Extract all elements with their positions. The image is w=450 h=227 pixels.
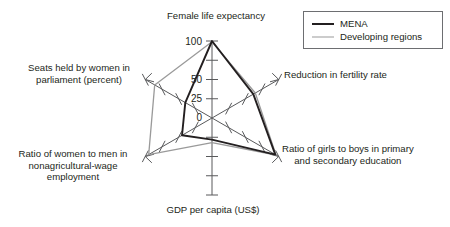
tick-wage-25 <box>192 122 198 134</box>
axis-label-education-line2: and secondary education <box>282 155 414 167</box>
radar-scale-labels: 0 25 50 100 <box>185 36 202 124</box>
radar-chart-figure: 0 25 50 100 Female life expectancy Reduc… <box>0 0 450 227</box>
scale-label-25: 25 <box>191 93 203 104</box>
axis-label-female-life-expectancy: Female life expectancy <box>148 10 284 22</box>
axis-label-education-line1: Ratio of girls to boys in primary <box>282 143 414 155</box>
radar-axes <box>145 41 278 195</box>
axis-label-parliament-line2: parliament (percent) <box>12 74 146 86</box>
scale-label-100: 100 <box>185 36 202 47</box>
tick-wage-75 <box>159 141 165 153</box>
axis-label-fertility-text: Reduction in fertility rate <box>284 69 387 80</box>
tick-fertility-25 <box>226 103 232 115</box>
axis-label-gdp-text: GDP per capita (US$) <box>166 204 259 215</box>
axis-label-wage-line2: nonagricultural-wage <box>4 160 142 172</box>
axis-label-top-text: Female life expectancy <box>167 10 265 21</box>
legend-label-mena: MENA <box>340 18 368 29</box>
tick-wage-50 <box>176 131 182 143</box>
scale-label-0: 0 <box>196 112 202 123</box>
legend-label-developing-regions: Developing regions <box>340 31 422 42</box>
tick-parliament-50 <box>176 93 182 105</box>
axis-label-seats-held-by-women: Seats held by women in parliament (perce… <box>12 62 146 85</box>
tick-education-25 <box>226 122 232 134</box>
tick-parliament-75 <box>159 84 165 96</box>
legend-line-swatch-developing-icon <box>311 32 335 41</box>
tick-fertility-50 <box>242 93 248 105</box>
axis-label-wage-line3: employment <box>4 171 142 183</box>
legend-item-mena: MENA <box>311 17 436 30</box>
legend-line-swatch-mena-icon <box>311 19 335 28</box>
chart-legend: MENA Developing regions <box>303 11 443 49</box>
axis-label-girls-to-boys-education: Ratio of girls to boys in primary and se… <box>282 143 414 166</box>
legend-item-developing-regions: Developing regions <box>311 30 436 43</box>
axis-label-parliament-line1: Seats held by women in <box>12 62 146 74</box>
axis-label-gdp-per-capita: GDP per capita (US$) <box>143 204 283 216</box>
tick-education-50 <box>242 131 248 143</box>
axis-label-wage-line1: Ratio of women to men in <box>4 148 142 160</box>
tick-fertility-75 <box>259 84 265 96</box>
axis-label-women-to-men-wage-employment: Ratio of women to men in nonagricultural… <box>4 148 142 183</box>
axis-label-reduction-in-fertility-rate: Reduction in fertility rate <box>284 69 387 81</box>
